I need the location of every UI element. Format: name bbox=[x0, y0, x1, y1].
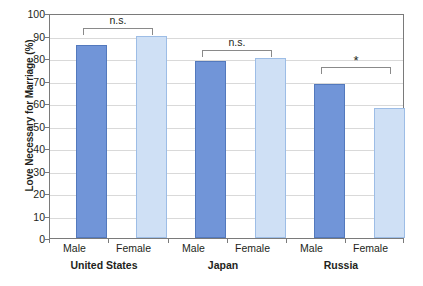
x-label-russia-male: Male bbox=[282, 242, 341, 254]
y-tick-100: 100 bbox=[9, 9, 45, 19]
x-label-united-states-male: Male bbox=[45, 242, 104, 254]
group-label-russia: Russia bbox=[282, 259, 400, 271]
significance-label-russia: * bbox=[321, 54, 391, 67]
x-label-japan-male: Male bbox=[164, 242, 223, 254]
bar-japan-male bbox=[195, 61, 226, 238]
significance-label-united-states: n.s. bbox=[83, 14, 153, 26]
bar-united-states-male bbox=[76, 45, 107, 238]
y-tick-10: 10 bbox=[9, 212, 45, 222]
bar-chart: Love Necessary for Marriage (%) 100 90 8… bbox=[0, 0, 423, 286]
y-tick-90: 90 bbox=[9, 32, 45, 42]
x-label-united-states-female: Female bbox=[104, 242, 163, 254]
bar-russia-male bbox=[314, 84, 345, 238]
y-tick-70: 70 bbox=[9, 77, 45, 87]
y-tick-40: 40 bbox=[9, 144, 45, 154]
y-tick-20: 20 bbox=[9, 189, 45, 199]
x-tick-mark bbox=[403, 239, 404, 243]
y-tick-50: 50 bbox=[9, 122, 45, 132]
plot-area: n.s. n.s. * bbox=[49, 14, 404, 239]
bar-united-states-female bbox=[136, 36, 167, 238]
significance-label-japan: n.s. bbox=[202, 36, 272, 48]
y-tick-0: 0 bbox=[9, 234, 45, 244]
y-tick-80: 80 bbox=[9, 54, 45, 64]
y-axis-ticks: 100 90 80 70 60 50 40 30 20 10 0 bbox=[9, 14, 45, 239]
bar-russia-female bbox=[374, 108, 405, 238]
y-tick-60: 60 bbox=[9, 99, 45, 109]
bar-japan-female bbox=[255, 58, 286, 238]
x-label-russia-female: Female bbox=[341, 242, 400, 254]
group-label-japan: Japan bbox=[164, 259, 282, 271]
x-label-japan-female: Female bbox=[223, 242, 282, 254]
group-label-united-states: United States bbox=[45, 259, 163, 271]
y-tick-30: 30 bbox=[9, 167, 45, 177]
